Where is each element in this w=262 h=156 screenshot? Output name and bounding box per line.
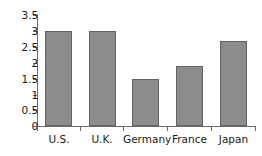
bar-japan: [220, 41, 247, 126]
y-tick-label-6: 3: [8, 26, 38, 37]
y-tick-label-3: 1.5: [8, 74, 38, 85]
x-axis-label-france: France: [167, 133, 212, 145]
x-tick-mark-4: [211, 127, 212, 131]
x-tick-mark-3: [167, 127, 168, 131]
x-tick-mark-1: [80, 127, 81, 131]
x-axis-label-uk: U.K.: [80, 133, 124, 145]
bar-chart: 0 0.5 1 1.5 2 2.5 3 3.5 U.S. U.K.: [0, 0, 262, 156]
y-tick-label-7: 3.5: [8, 10, 38, 21]
x-tick-mark-5: [255, 127, 256, 131]
bar-france: [176, 66, 203, 126]
y-tick-label-4: 2: [8, 58, 38, 69]
bar-germany: [132, 79, 159, 126]
x-axis-line: [37, 126, 256, 127]
y-tick-label-5: 2.5: [8, 42, 38, 53]
y-tick-label-0: 0: [8, 121, 38, 132]
x-tick-mark-2: [123, 127, 124, 131]
x-axis-label-japan: Japan: [211, 133, 256, 145]
y-tick-label-1: 0.5: [8, 105, 38, 116]
x-axis-label-us: U.S.: [37, 133, 81, 145]
y-tick-label-2: 1: [8, 90, 38, 101]
x-tick-mark-0: [37, 127, 38, 131]
bar-uk: [89, 31, 116, 126]
bar-us: [45, 31, 72, 126]
x-axis-label-germany: Germany: [123, 133, 168, 145]
